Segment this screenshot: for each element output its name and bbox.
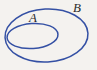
set-b-label: B	[73, 1, 81, 14]
set-a-label: A	[29, 11, 37, 24]
venn-diagram-canvas	[0, 0, 97, 70]
venn-subset-diagram: A B	[0, 0, 97, 70]
set-a-ellipse	[6, 22, 59, 50]
set-b-ellipse	[4, 7, 90, 64]
